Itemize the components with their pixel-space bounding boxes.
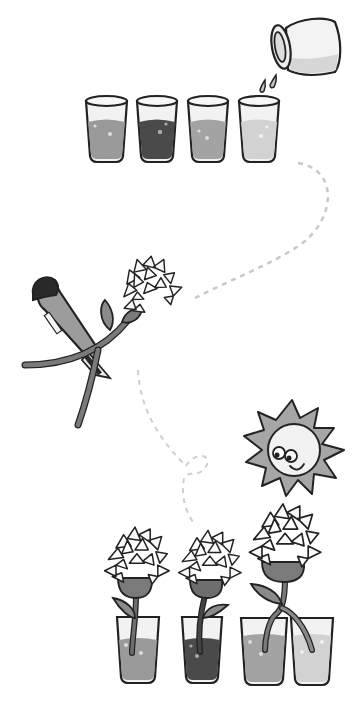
smiling-sun	[244, 400, 344, 496]
final-flower-3	[249, 504, 320, 582]
dashed-path-1	[195, 163, 328, 298]
cut-flower	[25, 248, 186, 425]
final-flower-1	[105, 527, 170, 598]
glass-4	[239, 96, 279, 162]
final-flower-2	[179, 530, 242, 598]
dashed-path-2	[138, 370, 208, 525]
experiment-illustration	[0, 0, 364, 703]
glass-3	[188, 96, 228, 162]
final-glass-1	[117, 617, 159, 683]
dye-drops	[260, 75, 276, 92]
glass-2	[137, 96, 177, 162]
dye-bottle	[268, 19, 340, 75]
glass-1	[86, 96, 127, 162]
